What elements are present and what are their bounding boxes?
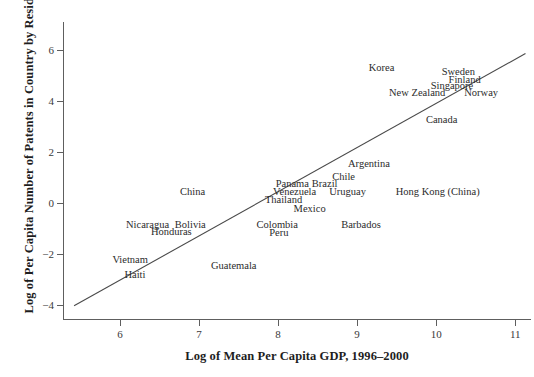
y-tick-mark — [57, 152, 63, 153]
y-tick-label: 6 — [49, 45, 55, 56]
data-point-label: Argentina — [348, 159, 390, 170]
x-tick-label: 9 — [354, 329, 360, 340]
data-point-label: Uruguay — [329, 187, 366, 198]
y-axis-title: Log of Per Capita Number of Patents in C… — [22, 14, 37, 314]
y-tick-mark — [57, 203, 63, 204]
data-point-label: Barbados — [341, 219, 381, 230]
x-tick-label: 6 — [117, 329, 123, 340]
y-tick-mark — [57, 254, 63, 255]
data-point-label: Mexico — [294, 204, 326, 215]
data-point-label: Peru — [269, 227, 288, 238]
x-tick-mark — [199, 320, 200, 326]
scatter-plot-figure: 6420−2−4 67891011 KoreaSwedenFinlandSing… — [0, 0, 534, 377]
plot-area: 6420−2−4 67891011 KoreaSwedenFinlandSing… — [63, 22, 531, 320]
data-point-label: Haiti — [124, 269, 145, 280]
data-point-label: Vietnam — [112, 255, 148, 266]
y-tick-mark — [57, 101, 63, 102]
data-point-label: Honduras — [151, 227, 192, 238]
x-axis-line — [63, 319, 531, 320]
y-axis-line — [63, 22, 64, 320]
y-tick-label: −4 — [42, 299, 54, 310]
data-point-label: New Zealand — [389, 88, 445, 99]
x-tick-label: 8 — [275, 329, 281, 340]
x-tick-mark — [436, 320, 437, 326]
data-point-label: China — [180, 187, 205, 198]
y-tick-mark — [57, 50, 63, 51]
y-tick-mark — [57, 305, 63, 306]
y-tick-label: −2 — [42, 248, 54, 259]
x-axis-title: Log of Mean Per Capita GDP, 1996–2000 — [63, 349, 531, 364]
data-point-label: Hong Kong (China) — [396, 187, 480, 198]
y-tick-label: 0 — [49, 197, 55, 208]
x-tick-mark — [278, 320, 279, 326]
data-point-label: Guatemala — [211, 261, 256, 272]
y-tick-label: 4 — [49, 95, 55, 106]
y-tick-label: 2 — [49, 146, 55, 157]
x-tick-mark — [357, 320, 358, 326]
x-tick-label: 7 — [196, 329, 202, 340]
data-point-label: Canada — [426, 115, 458, 126]
data-point-label: Norway — [464, 88, 498, 99]
x-tick-label: 11 — [510, 329, 521, 340]
x-tick-label: 10 — [431, 329, 442, 340]
x-tick-mark — [515, 320, 516, 326]
data-point-label: Korea — [369, 63, 395, 74]
x-tick-mark — [120, 320, 121, 326]
